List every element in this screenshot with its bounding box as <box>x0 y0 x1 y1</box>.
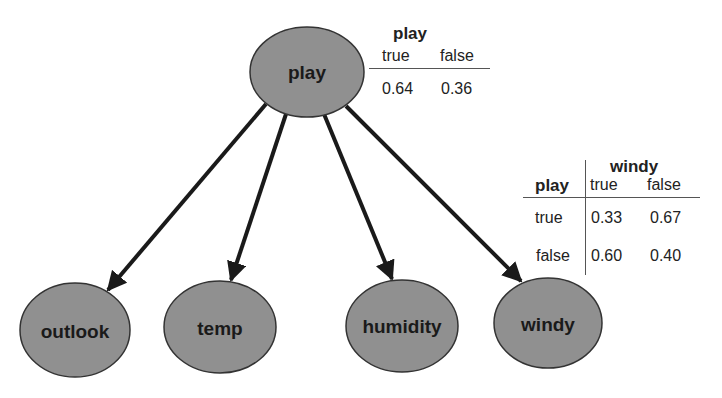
windy-cpt-row-true-value-false: 0.67 <box>650 210 681 226</box>
windy-cpt-row-header: play <box>535 177 569 194</box>
windy-cpt-title: windy <box>610 158 658 175</box>
play-cpt-col-false: false <box>440 48 474 64</box>
windy-cpt-row-true-value-true: 0.33 <box>591 210 622 226</box>
edge-play-windy <box>346 106 521 281</box>
play-cpt-title: play <box>393 25 427 42</box>
node-label-play: play <box>288 62 326 83</box>
windy-cpt-row-true-label: true <box>535 210 563 226</box>
bayes-network-graph: play outlook temp humidity windy <box>0 0 722 398</box>
node-play[interactable]: play <box>250 27 364 117</box>
node-outlook[interactable]: outlook <box>20 283 130 377</box>
windy-cpt-vdivider <box>585 160 586 275</box>
node-windy[interactable]: windy <box>494 278 602 368</box>
play-cpt-value-true: 0.64 <box>382 81 413 97</box>
node-temp[interactable]: temp <box>164 281 276 373</box>
edge-play-temp <box>231 114 286 280</box>
play-cpt-value-false: 0.36 <box>441 81 472 97</box>
windy-cpt-row-false-value-true: 0.60 <box>591 248 622 264</box>
windy-cpt-row-false-value-false: 0.40 <box>650 248 681 264</box>
play-cpt-col-true: true <box>382 48 410 64</box>
edge-play-outlook <box>108 104 266 290</box>
windy-cpt-col-false: false <box>647 177 681 193</box>
node-label-humidity: humidity <box>362 316 442 337</box>
node-label-outlook: outlook <box>41 321 110 342</box>
node-humidity[interactable]: humidity <box>346 280 458 372</box>
edge-play-humidity <box>324 114 392 279</box>
windy-cpt-col-true: true <box>590 177 618 193</box>
edges <box>108 104 521 290</box>
node-label-windy: windy <box>520 314 575 335</box>
windy-cpt-row-false-label: false <box>536 248 570 264</box>
node-label-temp: temp <box>197 318 242 339</box>
windy-cpt-hdivider <box>523 197 700 198</box>
play-cpt-divider <box>369 68 490 69</box>
